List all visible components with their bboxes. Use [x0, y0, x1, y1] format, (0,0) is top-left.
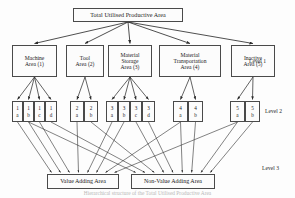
node-total-utilised-productive-area[interactable]: Total Utilised Productive Area: [73, 8, 183, 22]
node-nvaa-label: Non-Value Adding Area: [144, 178, 202, 185]
node-area2[interactable]: ToolArea (2): [66, 45, 104, 77]
node-nvaa[interactable]: Non-Value Adding Area: [131, 174, 215, 189]
level-label-2: Level 2: [265, 108, 282, 114]
node-n4b[interactable]: 4b: [188, 101, 203, 122]
edge-layer: [0, 0, 295, 198]
node-area2-line2: Area (2): [76, 61, 95, 67]
node-n2b-letter: b: [90, 112, 93, 119]
node-n3b-letter: b: [123, 112, 126, 119]
node-area1[interactable]: MachineArea (1): [12, 45, 57, 77]
node-n1b-letter: b: [27, 112, 30, 119]
node-area3[interactable]: MaterialStorageArea (3): [108, 45, 152, 77]
node-root-label: Total Utilised Productive Area: [90, 12, 166, 19]
node-n3b[interactable]: 3b: [118, 101, 130, 122]
level-label-3: Level 3: [262, 165, 279, 171]
node-n1d[interactable]: 1d: [45, 101, 57, 122]
node-vaa-label: Value Adding Area: [60, 178, 106, 185]
node-n1a-letter: a: [16, 112, 18, 119]
node-n2a[interactable]: 2a: [70, 101, 84, 122]
node-n5a[interactable]: 5a: [230, 101, 245, 122]
node-area1-line2: Area (1): [25, 61, 44, 67]
node-vaa[interactable]: Value Adding Area: [47, 174, 119, 189]
diagram-canvas: Total Utilised Productive Area MachineAr…: [0, 0, 295, 198]
node-n2b[interactable]: 2b: [84, 101, 98, 122]
node-n5b-letter: b: [251, 112, 254, 119]
node-area4-line3: Area (4): [181, 64, 200, 70]
node-n3c-letter: c: [135, 112, 137, 119]
node-n1b[interactable]: 1b: [23, 101, 34, 122]
node-n5a-letter: a: [236, 112, 238, 119]
node-n3a-letter: a: [111, 112, 113, 119]
node-n2a-letter: a: [76, 112, 78, 119]
node-n3d[interactable]: 3d: [142, 101, 155, 122]
node-n5b[interactable]: 5b: [245, 101, 260, 122]
node-n3a[interactable]: 3a: [106, 101, 118, 122]
node-n3c[interactable]: 3c: [130, 101, 142, 122]
node-n1d-letter: d: [50, 112, 53, 119]
node-n3d-letter: d: [147, 112, 150, 119]
node-n4a[interactable]: 4a: [173, 101, 188, 122]
node-n1c[interactable]: 1c: [34, 101, 45, 122]
node-n4a-letter: a: [179, 112, 181, 119]
figure-caption: Hierarchical structure of the Total Util…: [0, 190, 295, 196]
node-area4[interactable]: MaterialTransportationArea (4): [159, 45, 221, 77]
level-label-1: Level 1: [249, 58, 266, 64]
node-n1c-letter: c: [38, 112, 40, 119]
node-n4b-letter: b: [194, 112, 197, 119]
node-n1a[interactable]: 1a: [12, 101, 23, 122]
node-area3-line3: Area (3): [121, 64, 140, 70]
